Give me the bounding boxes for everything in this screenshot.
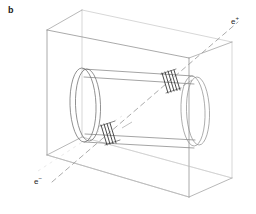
panel-label: b — [8, 6, 14, 15]
cylinder-left-rim-inner — [74, 69, 101, 142]
cylinder-right-endcap — [180, 76, 211, 147]
cylinder-right-rim-outer — [180, 76, 206, 147]
upper-hatched-band — [161, 69, 181, 93]
electron-charge: − — [38, 175, 42, 181]
hatch-u4 — [174, 70, 180, 90]
electron-beam-label: e− — [34, 178, 42, 186]
box-edge-depth-bottom-left — [47, 137, 82, 155]
box-front-edges — [47, 30, 189, 197]
positron-charge: + — [235, 15, 239, 21]
beam-axis-dashed-path — [52, 22, 238, 182]
cylinder-left-endcap — [69, 68, 102, 143]
box-edge-depth-top-right — [189, 42, 232, 58]
hatch-l3 — [110, 123, 116, 143]
hatch-l1 — [104, 124, 110, 144]
cylinder-generatrix-bottom-outer — [84, 142, 194, 148]
box-floor-guides — [47, 137, 232, 197]
beam-axis-line — [52, 22, 238, 182]
box-back-edges — [82, 10, 232, 178]
pointer-tick-lower — [122, 122, 132, 128]
box-edge-depth-bottom-right — [189, 178, 232, 197]
box-edge-depth-top-left — [47, 10, 82, 30]
lower-hatched-band — [100, 121, 120, 145]
positron-beam-label: e+ — [231, 18, 239, 26]
floor-front-edge-guide — [47, 155, 189, 197]
box-edge-front-top — [47, 30, 189, 58]
hatch-u3 — [171, 71, 177, 91]
hatch-u5 — [162, 73, 168, 93]
cylinder-barrel — [83, 69, 195, 148]
box-edge-back-top — [82, 10, 232, 42]
cylinder-left-rim-outer — [69, 68, 98, 143]
figure-panel-b: b e+ e− — [0, 0, 256, 214]
